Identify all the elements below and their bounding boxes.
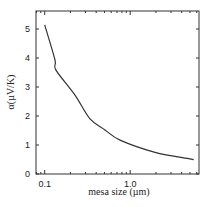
tick-label: 4 bbox=[25, 53, 30, 63]
y-axis-title: α(µV/K) bbox=[5, 75, 17, 110]
tick-label: 3 bbox=[25, 82, 30, 92]
x-axis-title: mesa size (µm) bbox=[88, 186, 149, 198]
tick-label: 2 bbox=[25, 111, 30, 121]
chart: 0123450.11.0 mesa size (µm) α(µV/K) bbox=[0, 0, 212, 207]
tick-label: 1 bbox=[25, 140, 30, 150]
tick-label: 0 bbox=[25, 169, 30, 179]
tick-label: 5 bbox=[25, 24, 30, 34]
tick-label: 0.1 bbox=[38, 179, 51, 189]
axis-ticks bbox=[36, 11, 199, 174]
tick-labels: 0123450.11.0 bbox=[25, 24, 136, 189]
data-curve bbox=[45, 25, 194, 160]
plot-frame bbox=[36, 11, 199, 174]
